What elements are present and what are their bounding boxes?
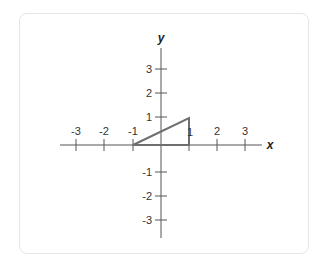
y-tick-label: -3 [142, 214, 152, 226]
y-tick-label: 2 [146, 87, 152, 99]
y-axis-label: y [157, 31, 166, 45]
y-tick-label: 3 [146, 63, 152, 75]
x-axis-label: x [266, 138, 275, 152]
x-tick-label: -1 [128, 125, 138, 137]
y-tick-label: -1 [142, 166, 152, 178]
y-tick-label: -2 [142, 190, 152, 202]
x-tick-label: -3 [71, 125, 81, 137]
y-tick-label: 1 [146, 111, 152, 123]
x-tick-label: 2 [214, 125, 220, 137]
triangle-side-label: 1 [187, 126, 193, 138]
x-tick-label: -2 [99, 125, 109, 137]
x-tick-label: 3 [242, 125, 248, 137]
coordinate-plane: -3 -2 -1 1 2 3 3 2 1 -1 -2 -3 x y [0, 0, 329, 268]
